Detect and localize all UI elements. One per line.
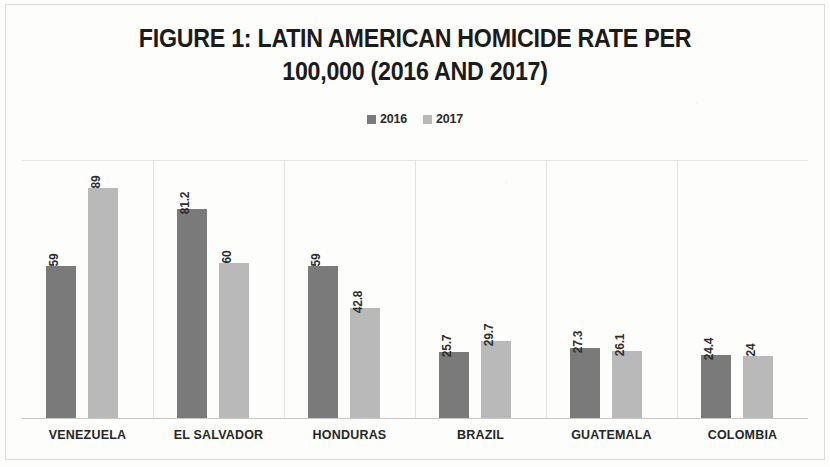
chart-title-line-1: FIGURE 1: LATIN AMERICAN HOMICIDE RATE P… xyxy=(94,22,736,55)
bar-guatemala-2016[interactable]: 27.3 xyxy=(570,160,600,418)
bar-group-guatemala: 27.326.1 xyxy=(546,160,677,418)
bar-value-label: 42.8 xyxy=(351,291,365,314)
bar-brazil-2017[interactable]: 29.7 xyxy=(481,160,511,418)
figure-container: FIGURE 1: LATIN AMERICAN HOMICIDE RATE P… xyxy=(0,0,830,467)
x-axis-baseline xyxy=(22,418,808,419)
bar-value-label: 60 xyxy=(220,251,234,264)
bar-rect[interactable] xyxy=(350,308,380,418)
plot-area: 598981.2605942.825.729.727.326.124.424 xyxy=(22,160,808,418)
bar-colombia-2016[interactable]: 24.4 xyxy=(701,160,731,418)
bar-value-label: 89 xyxy=(89,176,103,189)
page-border-right xyxy=(824,4,825,460)
bar-group-el-salvador: 81.260 xyxy=(153,160,284,418)
bar-rect[interactable] xyxy=(219,263,249,418)
category-label-colombia: COLOMBIA xyxy=(677,428,808,442)
bar-value-label: 81.2 xyxy=(178,192,192,215)
bar-rect[interactable] xyxy=(481,341,511,418)
bar-rect[interactable] xyxy=(743,356,773,418)
bar-rect[interactable] xyxy=(439,352,469,418)
bar-value-label: 27.3 xyxy=(571,331,585,354)
page-border-top xyxy=(5,4,825,5)
bar-el-salvador-2017[interactable]: 60 xyxy=(219,160,249,418)
bar-value-label: 24 xyxy=(744,344,758,357)
bar-rect[interactable] xyxy=(308,266,338,418)
bar-value-label: 26.1 xyxy=(613,334,627,357)
chart-title-line-2: 100,000 (2016 AND 2017) xyxy=(94,55,736,88)
page-border-left xyxy=(5,4,6,460)
bar-rect[interactable] xyxy=(177,209,207,418)
bar-value-label: 24.4 xyxy=(702,338,716,361)
legend-swatch-icon-2016 xyxy=(367,115,376,124)
bar-venezuela-2016[interactable]: 59 xyxy=(46,160,76,418)
bar-value-label: 59 xyxy=(309,254,323,267)
legend-item-2016[interactable]: 2016 xyxy=(367,112,407,126)
category-label-el-salvador: EL SALVADOR xyxy=(153,428,284,442)
bar-el-salvador-2016[interactable]: 81.2 xyxy=(177,160,207,418)
chart-title: FIGURE 1: LATIN AMERICAN HOMICIDE RATE P… xyxy=(94,22,736,87)
bar-rect[interactable] xyxy=(88,188,118,418)
legend-swatch-icon-2017 xyxy=(423,115,432,124)
category-label-brazil: BRAZIL xyxy=(415,428,546,442)
bar-value-label: 29.7 xyxy=(482,324,496,347)
bar-brazil-2016[interactable]: 25.7 xyxy=(439,160,469,418)
legend-label: 2016 xyxy=(380,112,407,126)
bar-honduras-2017[interactable]: 42.8 xyxy=(350,160,380,418)
category-label-venezuela: VENEZUELA xyxy=(22,428,153,442)
legend-label: 2017 xyxy=(436,112,463,126)
bar-venezuela-2017[interactable]: 89 xyxy=(88,160,118,418)
bar-guatemala-2017[interactable]: 26.1 xyxy=(612,160,642,418)
bar-honduras-2016[interactable]: 59 xyxy=(308,160,338,418)
page-border-bottom xyxy=(5,459,825,460)
bar-group-brazil: 25.729.7 xyxy=(415,160,546,418)
bar-value-label: 59 xyxy=(47,254,61,267)
category-label-honduras: HONDURAS xyxy=(284,428,415,442)
bar-group-venezuela: 5989 xyxy=(22,160,153,418)
bar-rect[interactable] xyxy=(701,355,731,418)
bar-rect[interactable] xyxy=(612,351,642,418)
bar-value-label: 25.7 xyxy=(440,335,454,358)
bar-rect[interactable] xyxy=(46,266,76,418)
category-axis: VENEZUELAEL SALVADORHONDURASBRAZILGUATEM… xyxy=(22,428,808,452)
bar-colombia-2017[interactable]: 24 xyxy=(743,160,773,418)
bar-group-colombia: 24.424 xyxy=(677,160,808,418)
category-label-guatemala: GUATEMALA xyxy=(546,428,677,442)
chart-legend: 20162017 xyxy=(0,112,830,126)
bar-group-honduras: 5942.8 xyxy=(284,160,415,418)
bar-rect[interactable] xyxy=(570,348,600,418)
legend-item-2017[interactable]: 2017 xyxy=(423,112,463,126)
